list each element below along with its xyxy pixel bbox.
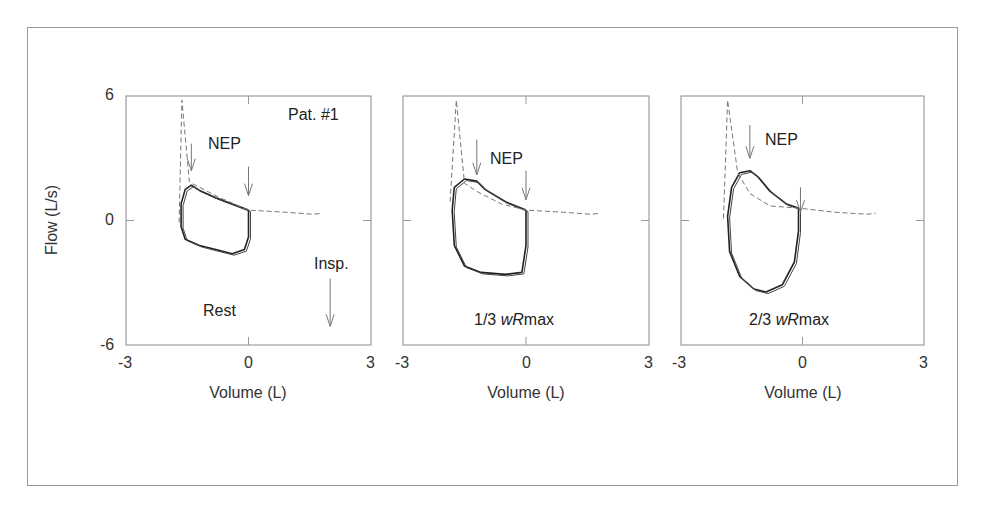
insp-label: Insp. [314,255,349,273]
y-axis-label: Flow (L/s) [43,185,61,255]
p2-xtick-0: 0 [522,354,531,372]
ytick-0: 0 [105,211,114,229]
p3-xtick-3: 3 [919,354,928,372]
p1-xtick-3: 3 [366,354,375,372]
p1-nep-label: NEP [208,135,241,153]
p3-xtick-0: 0 [798,354,807,372]
flow-volume-figure [0,0,986,517]
p2-x-axis-label: Volume (L) [487,384,564,402]
p2-condition-label: 1/3 wRmax [474,311,554,329]
p2-xtick-3: 3 [644,354,653,372]
tidal-loop-curve [728,171,799,292]
tidal-loop-curve-overlay [454,181,528,276]
plot-area-p3 [681,96,924,345]
p1-xtick-0: 0 [244,354,253,372]
p3-nep-label: NEP [765,131,798,149]
p2-xtick-neg3: -3 [395,354,409,372]
p3-xtick-neg3: -3 [672,354,686,372]
ytick-6: 6 [105,86,114,104]
p1-x-axis-label: Volume (L) [209,384,286,402]
p3-condition-label: 2/3 wRmax [749,311,829,329]
nep-dashed-curve [724,100,876,218]
p1-xtick-neg3: -3 [118,354,132,372]
patient-label: Pat. #1 [288,106,339,124]
tidal-loop-curve-overlay [730,172,801,293]
p3-x-axis-label: Volume (L) [764,384,841,402]
ytick-neg6: -6 [100,336,114,354]
p1-condition-label: Rest [203,302,236,320]
p2-nep-label: NEP [490,150,523,168]
tidal-loop-curve-overlay [183,187,250,256]
